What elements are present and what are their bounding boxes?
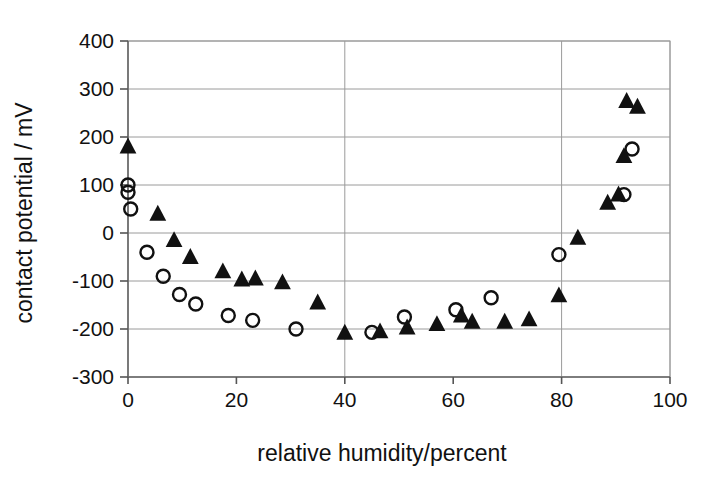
x-tick-label: 100 [652,388,687,411]
y-tick-label: 400 [79,29,114,52]
x-tick-label: 40 [333,388,356,411]
y-axis-title: contact potential / mV [11,102,37,324]
y-tick-label: -200 [72,317,114,340]
x-tick-label: 0 [122,388,134,411]
y-tick-label: 300 [79,77,114,100]
x-tick-label: 80 [550,388,573,411]
x-tick-label: 60 [442,388,465,411]
x-tick-label: 20 [225,388,248,411]
chart-canvas: 020406080100 -300-200-1000100200300400 r… [0,0,725,485]
y-tick-label: 200 [79,125,114,148]
y-tick-label: 0 [102,221,114,244]
y-tick-label: 100 [79,173,114,196]
y-tick-label: -300 [72,365,114,388]
contact-potential-scatter-chart: 020406080100 -300-200-1000100200300400 r… [0,0,725,485]
x-axis-title: relative humidity/percent [257,440,507,466]
y-tick-label: -100 [72,269,114,292]
